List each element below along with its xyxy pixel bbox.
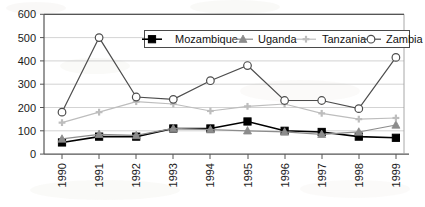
y-tick-label: 200: [18, 102, 36, 114]
y-tick-label: 400: [18, 55, 36, 67]
series-tanzania: [59, 98, 400, 126]
data-point-marker-filled-triangle: [392, 121, 400, 128]
line-chart: 600 500 400 300 200 100 0 1990 1991 1992…: [0, 0, 425, 207]
legend-item-label: Tanzania: [322, 33, 367, 45]
legend-item-zambia: Zambia: [361, 33, 424, 45]
data-series-layer: [58, 34, 400, 146]
data-point-marker-open-circle: [170, 96, 178, 104]
chart-canvas: 600 500 400 300 200 100 0 1990 1991 1992…: [0, 0, 425, 207]
y-axis-tick-labels: 600 500 400 300 200 100 0: [18, 8, 36, 160]
legend-item-label: Zambia: [386, 33, 424, 45]
x-tick-label: 1996: [279, 163, 291, 187]
data-point-marker-small-cross: [59, 119, 66, 126]
legend-item-label: Mozambique: [175, 33, 238, 45]
data-point-marker-small-cross: [96, 109, 103, 116]
x-tick-label: 1994: [204, 163, 216, 187]
data-point-marker-open-circle: [58, 108, 66, 116]
y-tick-label: 600: [18, 8, 36, 20]
y-tick-label: 100: [18, 125, 36, 137]
x-tick-label: 1992: [130, 163, 142, 187]
x-tick-label: 1995: [242, 163, 254, 187]
y-tick-label: 0: [30, 148, 36, 160]
data-point-marker-open-circle: [392, 54, 400, 62]
data-point-marker-small-cross: [244, 103, 251, 110]
data-point-marker-filled-square: [244, 118, 251, 125]
series-mozambique: [58, 118, 399, 146]
x-tick-label: 1993: [167, 163, 179, 187]
data-point-marker-filled-square: [392, 134, 399, 141]
x-tick-label: 1991: [93, 163, 105, 187]
x-axis-ticks: [62, 154, 396, 159]
series-uganda: [58, 121, 400, 142]
y-tick-label: 300: [18, 78, 36, 90]
legend: MozambiqueUgandaTanzaniaZambia: [142, 31, 424, 48]
legend-item-label: Uganda: [258, 33, 297, 45]
data-point-marker-small-cross: [355, 116, 362, 123]
data-point-marker-open-circle: [207, 77, 215, 85]
data-point-marker-open-circle: [318, 97, 326, 105]
data-point-marker-open-circle: [367, 35, 375, 43]
x-tick-label: 1990: [56, 163, 68, 187]
data-point-marker-open-circle: [244, 62, 252, 70]
data-point-marker-open-circle: [132, 93, 140, 101]
data-point-marker-small-cross: [318, 110, 325, 117]
data-point-marker-small-cross: [207, 108, 214, 115]
data-point-marker-open-circle: [281, 97, 289, 105]
x-tick-label: 1998: [353, 163, 365, 187]
y-tick-label: 500: [18, 32, 36, 44]
data-point-marker-open-circle: [355, 105, 363, 113]
data-point-marker-filled-square: [148, 36, 155, 43]
x-tick-label: 1999: [390, 163, 402, 187]
x-axis-tick-labels: 1990 1991 1992 1993 1994 1995 1996 1997 …: [56, 163, 402, 187]
data-point-marker-small-cross: [393, 115, 400, 122]
data-point-marker-open-circle: [95, 34, 103, 42]
x-tick-label: 1997: [316, 163, 328, 187]
